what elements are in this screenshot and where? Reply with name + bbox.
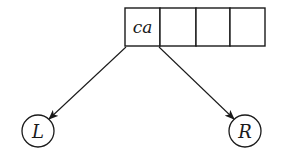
child-node-left: L <box>22 115 54 147</box>
edge-to-left-child <box>49 47 126 119</box>
child-node-right: R <box>229 115 261 147</box>
child-node-label: R <box>237 121 252 142</box>
array-cell-label: ca <box>133 17 153 37</box>
node-array: ca <box>125 8 265 46</box>
array-cell-1 <box>160 8 196 46</box>
array-cell-2 <box>196 8 230 46</box>
edge-to-right-child <box>159 47 234 119</box>
tree-diagram: ca L R <box>0 0 281 164</box>
child-node-label: L <box>31 121 44 142</box>
array-cell-0: ca <box>125 8 160 46</box>
array-cell-3 <box>230 8 265 46</box>
